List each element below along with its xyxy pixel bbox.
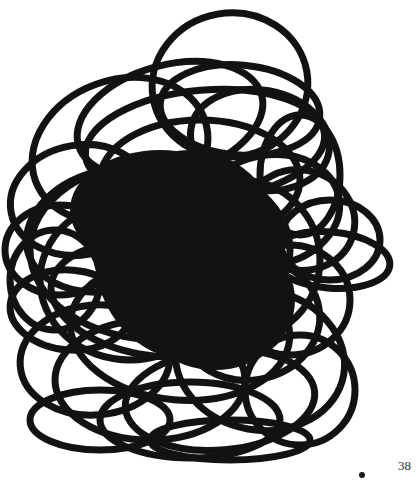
bullet-dot-icon xyxy=(359,472,365,478)
scribble-dense-core-lower xyxy=(135,230,295,370)
page-number: 38 xyxy=(398,458,411,474)
document-page: 38 xyxy=(0,0,420,485)
scribble-illustration xyxy=(0,0,420,485)
